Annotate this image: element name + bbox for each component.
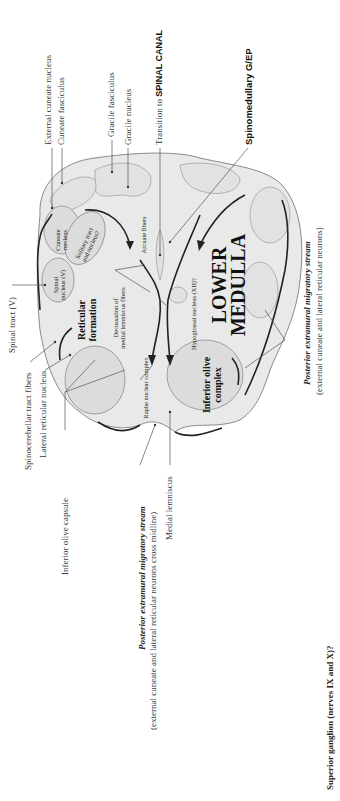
lateral-reticular-nucleus-label: Lateral reticular nucleus	[38, 370, 48, 458]
arcuate-fibers-label: Arcuate fibers	[140, 216, 147, 253]
hypoglossal-label: Hypoglossal nucleus (XII)?	[190, 278, 198, 350]
spinocerebellar-label: Spinocerebellar tract fibers	[23, 372, 33, 470]
stream-left-title: Posterior extramural migratory stream	[137, 506, 147, 650]
superior-ganglion-label: Superior ganglion (nerves IX and X)?	[325, 645, 335, 790]
medulla-section: Cuneatenucleus Solitary tractand nucleus…	[37, 153, 301, 435]
external-cuneate-nucleus-label: External cuneate nucleus	[43, 55, 53, 145]
inferior-olive-capsule-label: Inferior olive capsule	[60, 498, 70, 575]
gracile-fasciculus-label: Gracile fasciculus	[106, 72, 116, 137]
transition-spinal-canal-label: Transition to SPINAL CANAL	[154, 29, 164, 145]
medial-lemniscus-label: Medial lemniscus	[164, 476, 174, 540]
stream-left-subtitle: (external cuneate and lateral reticular …	[148, 512, 158, 730]
lower-medulla-title: LOWERMEDULLA	[208, 233, 249, 336]
cuneate-fasciculus-label: Cuneate fasciculus	[56, 77, 66, 145]
stream-right-title: Posterior extramural migratory stream	[302, 241, 312, 385]
medulla-diagram: Cuneatenucleus Solitary tractand nucleus…	[0, 0, 340, 801]
stream-bottom-right	[175, 428, 222, 435]
right-lateral-region-1	[250, 187, 290, 243]
stream-right-subtitle: (external cuneate and lateral reticular …	[314, 227, 324, 395]
cuneate-nucleus-label: Cuneatenucleus	[54, 229, 68, 250]
gracile-region	[95, 163, 151, 196]
spinomedullary-label: Spinomedullary G/EP	[243, 48, 254, 145]
spinal-tract-v-label: Spinal tract (V)	[7, 297, 17, 353]
left-olive-region	[65, 346, 125, 414]
gracile-nucleus-label: Gracile nucleus	[123, 88, 133, 145]
reticular-formation-label: Reticularformation	[76, 298, 98, 341]
raphe-label: Raphe nuclear complex	[142, 357, 149, 419]
